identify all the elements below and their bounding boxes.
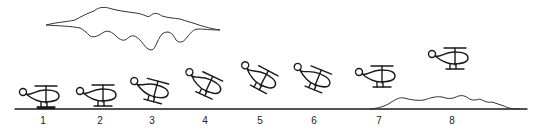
- helicopter-3: [127, 74, 171, 105]
- stage-label-3: 3: [149, 115, 155, 126]
- stage-label-5: 5: [257, 115, 263, 126]
- stage-label-6: 6: [311, 115, 317, 126]
- hill-profile: [370, 96, 520, 109]
- helicopter-1: [20, 86, 60, 108]
- stage-label-4: 4: [202, 115, 208, 126]
- helicopter-4: [180, 65, 225, 101]
- stage-label-2: 2: [97, 115, 103, 126]
- helicopter-2: [77, 85, 117, 106]
- stage-label-7: 7: [376, 115, 382, 126]
- cloud-outline: [46, 7, 220, 50]
- stage-label-1: 1: [40, 115, 46, 126]
- takeoff-diagram: 1 2 3 4 5 6 7 8: [0, 0, 551, 136]
- helicopter-7: [356, 66, 396, 87]
- helicopter-8: [429, 48, 469, 69]
- helicopter-6: [289, 60, 333, 94]
- stage-label-8: 8: [449, 115, 455, 126]
- helicopter-5: [235, 58, 280, 95]
